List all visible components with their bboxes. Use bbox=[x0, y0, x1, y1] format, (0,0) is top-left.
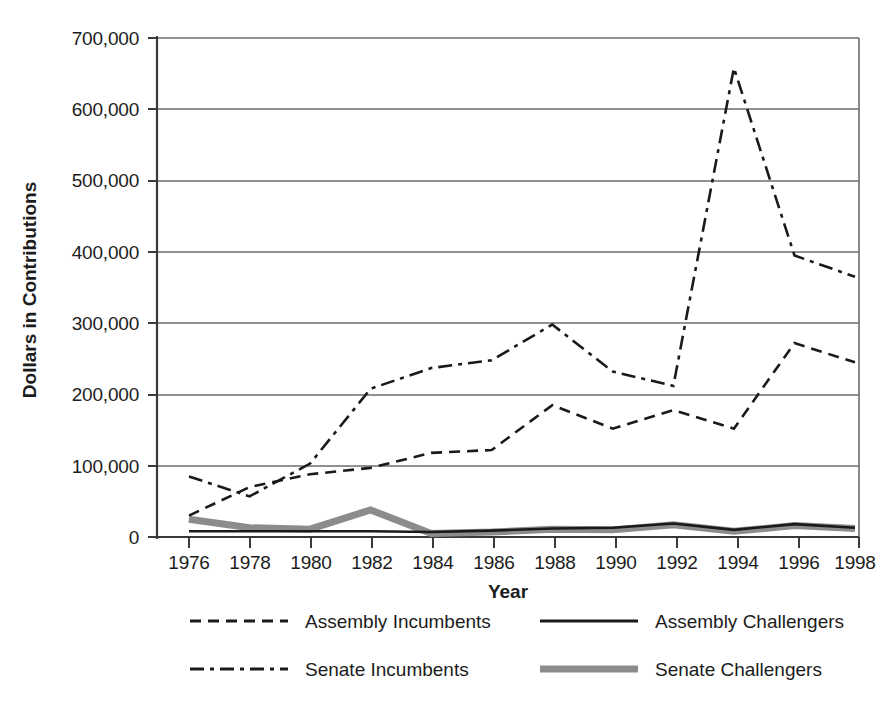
y-tick-label: 100,000 bbox=[72, 456, 139, 477]
x-tick-label: 1986 bbox=[473, 552, 514, 573]
legend-label: Senate Incumbents bbox=[305, 659, 469, 680]
y-tick-label: 600,000 bbox=[72, 99, 139, 120]
y-tick-label: 700,000 bbox=[72, 28, 139, 49]
y-tick-label: 300,000 bbox=[72, 313, 139, 334]
line-chart: Dollars in Contributions 700,000 600,000… bbox=[0, 0, 896, 705]
data-series-layer bbox=[189, 68, 855, 534]
legend-item-senate-incumbents: Senate Incumbents bbox=[190, 659, 469, 680]
legend-label: Assembly Challengers bbox=[655, 611, 844, 632]
series-line-assembly-incumbents bbox=[189, 343, 855, 516]
y-axis-tickmarks bbox=[148, 38, 157, 537]
x-tick-label: 1994 bbox=[717, 552, 759, 573]
x-axis-tick-labels: 1976 1978 1980 1982 1984 1986 1988 1990 … bbox=[168, 552, 875, 573]
x-tick-label: 1990 bbox=[595, 552, 636, 573]
legend-label: Assembly Incumbents bbox=[305, 611, 491, 632]
y-tick-label: 400,000 bbox=[72, 242, 139, 263]
x-axis-tickmarks bbox=[189, 537, 859, 548]
x-tick-label: 1992 bbox=[656, 552, 697, 573]
legend-item-assembly-challengers: Assembly Challengers bbox=[540, 611, 844, 632]
x-axis-title: Year bbox=[488, 581, 529, 602]
series-line-senate-incumbents bbox=[189, 68, 855, 496]
legend-item-assembly-incumbents: Assembly Incumbents bbox=[190, 611, 491, 632]
x-tick-label: 1988 bbox=[534, 552, 575, 573]
x-tick-label: 1976 bbox=[168, 552, 209, 573]
y-tick-label: 500,000 bbox=[72, 170, 139, 191]
legend-label: Senate Challengers bbox=[655, 659, 822, 680]
x-tick-label: 1982 bbox=[351, 552, 392, 573]
legend-item-senate-challengers: Senate Challengers bbox=[540, 659, 822, 680]
x-tick-label: 1998 bbox=[834, 552, 875, 573]
x-tick-label: 1984 bbox=[412, 552, 454, 573]
chart-legend: Assembly Incumbents Assembly Challengers… bbox=[190, 611, 844, 680]
chart-figure: Dollars in Contributions 700,000 600,000… bbox=[0, 0, 896, 705]
y-tick-label: 200,000 bbox=[72, 384, 139, 405]
y-axis-tick-labels: 700,000 600,000 500,000 400,000 300,000 … bbox=[72, 28, 139, 548]
x-tick-label: 1980 bbox=[290, 552, 331, 573]
y-axis-title: Dollars in Contributions bbox=[19, 182, 40, 398]
x-tick-label: 1996 bbox=[778, 552, 819, 573]
x-tick-label: 1978 bbox=[229, 552, 270, 573]
y-tick-label: 0 bbox=[129, 527, 139, 548]
